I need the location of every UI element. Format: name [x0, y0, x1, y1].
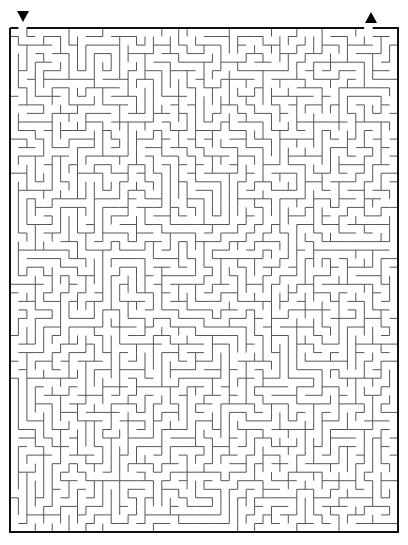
maze-walls — [10, 28, 398, 532]
maze-grid — [0, 0, 408, 545]
